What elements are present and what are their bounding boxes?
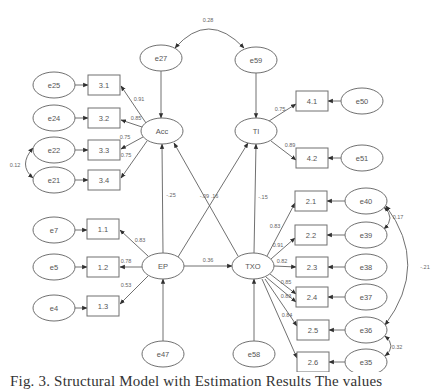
node-label: e59	[250, 56, 263, 65]
path-arrow	[120, 230, 148, 256]
indicator-4.1: 4.1	[296, 91, 328, 111]
node-label: 3.2	[99, 114, 109, 123]
node-e47: e47	[142, 341, 184, 367]
node-label: e38	[360, 263, 373, 272]
node-label: e24	[48, 114, 61, 123]
node-label: 1.3	[98, 302, 108, 311]
indicator-1.1: 1.1	[87, 219, 119, 239]
node-e22: e22	[33, 137, 75, 163]
node-label: 2.3	[307, 263, 317, 272]
path-coefficient: 0.75	[121, 152, 132, 158]
path-arrow	[162, 144, 163, 253]
node-Acc: Acc	[141, 118, 183, 144]
path-coefficient: 0.85	[281, 279, 292, 285]
indicator-3.3: 3.3	[88, 140, 120, 160]
node-label: e4	[50, 304, 58, 313]
node-e21: e21	[33, 167, 75, 193]
indicator-1.3: 1.3	[87, 296, 119, 316]
node-label: 2.1	[306, 197, 316, 206]
node-label: e58	[248, 350, 261, 359]
covariance-arc	[26, 148, 34, 178]
path-coefficient: 0.91	[134, 96, 145, 102]
path-arrow	[121, 120, 142, 127]
indicator-3.4: 3.4	[88, 170, 120, 190]
path-layer	[33, 71, 345, 362]
node-e35: e35	[345, 349, 387, 372]
path-coefficient: 0.83	[270, 223, 281, 229]
path-coefficient: 0.75	[275, 106, 286, 112]
path-arrow	[174, 143, 238, 256]
path-coefficient: 0.78	[121, 258, 132, 264]
path-arrow	[265, 279, 297, 326]
path-coefficient: 0.91	[273, 242, 284, 248]
node-e50: e50	[341, 88, 383, 114]
node-label: e7	[50, 226, 58, 235]
node-label: 2.6	[308, 358, 318, 367]
indicator-2.3: 2.3	[296, 257, 328, 277]
node-label: e37	[360, 293, 373, 302]
covariance-label: 0.12	[10, 162, 21, 168]
covariance-arc	[175, 29, 244, 48]
indicator-2.4: 2.4	[296, 287, 328, 307]
covariance-label: 0.32	[392, 344, 403, 350]
node-label: e39	[360, 231, 373, 240]
node-label: e35	[360, 358, 373, 367]
node-e39: e39	[345, 222, 387, 248]
node-label: e5	[50, 263, 58, 272]
node-label: e21	[48, 176, 61, 185]
node-e4: e4	[33, 295, 75, 321]
path-coefficient: 0.83	[135, 237, 146, 243]
node-label: e40	[360, 197, 373, 206]
node-label: e36	[360, 326, 373, 335]
node-e36: e36	[345, 317, 387, 343]
indicator-2.2: 2.2	[295, 225, 327, 245]
path-coefficient: -.09 .16	[200, 193, 219, 199]
node-EP: EP	[142, 253, 184, 279]
node-label: e50	[356, 97, 369, 106]
node-e38: e38	[345, 254, 387, 280]
sem-diagram: AccTIEPTXOe27e59e25e24e22e21e50e51e40e39…	[0, 0, 447, 372]
path-coefficient: 0.85	[131, 115, 142, 121]
node-label: 3.3	[99, 146, 109, 155]
node-label: 4.1	[307, 97, 317, 106]
node-e25: e25	[33, 72, 75, 98]
covariance-label: 0.28	[203, 17, 214, 23]
path-arrow	[267, 203, 295, 256]
node-e51: e51	[341, 145, 383, 171]
node-label: TI	[253, 127, 260, 136]
node-label: 1.2	[98, 263, 108, 272]
figure-caption: Fig. 3. Structural Model with Estimation…	[10, 373, 447, 390]
path-coefficient: 0.84	[282, 312, 293, 318]
node-label: 1.1	[98, 225, 108, 234]
path-coefficient: 0.82	[277, 258, 288, 264]
node-label: e25	[48, 81, 61, 90]
node-layer: AccTIEPTXOe27e59e25e24e22e21e50e51e40e39…	[33, 45, 387, 372]
indicator-2.5: 2.5	[297, 320, 329, 340]
covariance-label: -.21	[420, 264, 429, 270]
path-arrow	[254, 144, 256, 253]
node-TXO: TXO	[232, 253, 274, 279]
node-label: 2.5	[308, 326, 318, 335]
indicator-2.6: 2.6	[297, 352, 329, 372]
path-coefficient: -.15	[258, 194, 267, 200]
node-e24: e24	[33, 105, 75, 131]
path-coefficient: 0.75	[120, 134, 131, 140]
node-label: e47	[157, 350, 170, 359]
node-e40: e40	[345, 188, 387, 214]
node-label: e51	[356, 154, 369, 163]
node-label: 3.1	[99, 81, 109, 90]
node-TI: TI	[235, 118, 277, 144]
node-label: 2.4	[307, 293, 317, 302]
node-label: 2.2	[306, 231, 316, 240]
node-e27: e27	[140, 45, 182, 71]
path-arrow	[120, 276, 148, 304]
covariance-label: 0.17	[393, 214, 404, 220]
path-coefficient: 0.89	[285, 142, 296, 148]
node-e58: e58	[233, 341, 275, 367]
path-arrow	[274, 266, 296, 267]
node-label: Acc	[156, 127, 169, 136]
node-label: 4.2	[307, 154, 317, 163]
node-e59: e59	[235, 47, 277, 73]
indicator-3.1: 3.1	[88, 75, 120, 95]
path-arrow	[178, 143, 248, 257]
